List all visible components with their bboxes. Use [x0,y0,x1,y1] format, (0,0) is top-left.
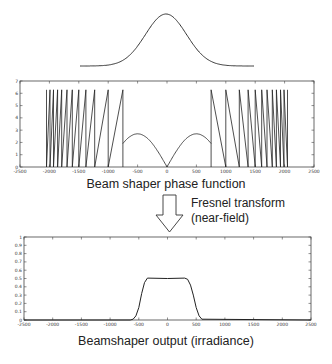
svg-text:0: 0 [15,165,18,170]
transform-caption-line2: (near-field) [191,211,249,225]
svg-text:0.6: 0.6 [15,268,22,273]
svg-text:1500: 1500 [248,322,260,327]
phase-plot-frame [20,81,314,167]
svg-text:0: 0 [166,322,169,327]
svg-text:2000: 2000 [279,169,291,174]
svg-text:-2500: -2500 [13,169,26,174]
output-plot-ticks: -2500-2000-1500-1000-5000500100015002000… [15,235,317,328]
svg-text:0.3: 0.3 [15,293,22,298]
phase-curve [47,90,288,167]
svg-text:-500: -500 [134,322,144,327]
svg-text:0: 0 [19,318,22,323]
svg-text:-500: -500 [132,169,142,174]
svg-text:1000: 1000 [219,322,231,327]
svg-text:2500: 2500 [308,169,320,174]
input-gaussian-curve [80,14,254,66]
svg-text:5: 5 [15,103,18,108]
svg-text:0: 0 [166,169,169,174]
svg-text:0.1: 0.1 [15,309,22,314]
svg-text:2000: 2000 [277,322,289,327]
phase-caption: Beam shaper phase function [0,177,332,191]
svg-text:-2500: -2500 [17,322,30,327]
svg-text:6: 6 [15,91,18,96]
svg-text:1: 1 [19,235,22,240]
irradiance-curve [24,278,311,320]
down-arrow-icon [156,195,183,232]
svg-text:0.8: 0.8 [15,251,22,256]
svg-text:7: 7 [15,79,18,84]
svg-text:-1500: -1500 [75,322,88,327]
svg-text:-1000: -1000 [104,322,117,327]
svg-text:2500: 2500 [305,322,317,327]
svg-text:3: 3 [15,128,18,133]
svg-text:4: 4 [15,115,18,120]
svg-text:-1000: -1000 [102,169,115,174]
svg-text:1: 1 [15,152,18,157]
phase-plot: -2500-2000-1500-1000-5000500100015002000… [13,79,319,175]
svg-text:-2000: -2000 [43,169,56,174]
svg-text:0.2: 0.2 [15,301,22,306]
output-caption: Beamshaper output (irradiance) [0,334,332,348]
svg-text:1500: 1500 [249,169,261,174]
svg-text:2: 2 [15,140,18,145]
transform-caption-line1: Fresnel transform [191,196,285,210]
svg-text:0.4: 0.4 [15,284,22,289]
svg-text:0.9: 0.9 [15,243,22,248]
svg-text:-2000: -2000 [46,322,59,327]
svg-text:500: 500 [192,169,201,174]
output-plot: -2500-2000-1500-1000-5000500100015002000… [15,235,317,328]
svg-text:500: 500 [192,322,201,327]
svg-text:0.5: 0.5 [15,276,22,281]
svg-text:1000: 1000 [220,169,232,174]
svg-text:0.7: 0.7 [15,259,22,264]
svg-text:-1500: -1500 [72,169,85,174]
